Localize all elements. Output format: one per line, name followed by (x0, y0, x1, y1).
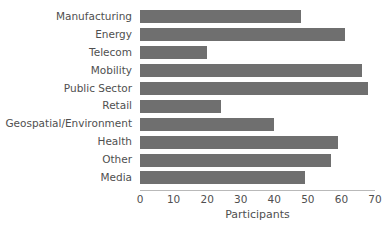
category-label: Media (0, 169, 136, 187)
x-tick-label: 10 (167, 193, 180, 205)
x-tick-label: 50 (301, 193, 314, 205)
plot-area (140, 8, 375, 190)
bar-row (140, 151, 375, 169)
bar (140, 10, 301, 23)
category-label: Mobility (0, 62, 136, 80)
category-label: Other (0, 151, 136, 169)
x-tick-label: 40 (268, 193, 281, 205)
category-label: Energy (0, 26, 136, 44)
bar-chart-figure: ManufacturingEnergyTelecomMobilityPublic… (0, 0, 391, 239)
bar-row (140, 115, 375, 133)
bar-row (140, 97, 375, 115)
bar (140, 46, 207, 59)
category-label: Public Sector (0, 80, 136, 98)
x-axis-title: Participants (140, 208, 375, 221)
x-axis-tick-labels: 010203040506070 (0, 193, 391, 207)
bar (140, 28, 345, 41)
category-label: Geospatial/Environment (0, 115, 136, 133)
x-tick-label: 70 (368, 193, 381, 205)
x-tick-label: 60 (335, 193, 348, 205)
bar-row (140, 8, 375, 26)
category-label: Manufacturing (0, 8, 136, 26)
bar (140, 171, 305, 184)
bar (140, 154, 331, 167)
x-tick-label: 30 (234, 193, 247, 205)
x-tick-label: 20 (200, 193, 213, 205)
y-axis-category-labels: ManufacturingEnergyTelecomMobilityPublic… (0, 8, 136, 190)
category-label: Retail (0, 97, 136, 115)
bar (140, 118, 274, 131)
x-axis-line (140, 190, 375, 191)
category-label: Health (0, 133, 136, 151)
bar-row (140, 169, 375, 187)
bar (140, 100, 221, 113)
x-tick-label: 0 (137, 193, 144, 205)
bar (140, 82, 368, 95)
bar-row (140, 133, 375, 151)
bar (140, 136, 338, 149)
bar-row (140, 62, 375, 80)
bar-row (140, 80, 375, 98)
bar (140, 64, 362, 77)
bar-row (140, 26, 375, 44)
category-label: Telecom (0, 44, 136, 62)
bar-row (140, 44, 375, 62)
